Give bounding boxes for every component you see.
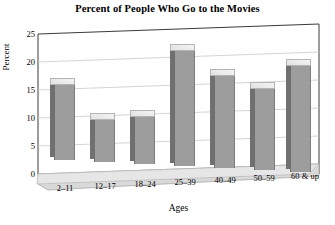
bar-front-face xyxy=(290,63,311,172)
bar-chart: Percent of People Who Go to the Movies P… xyxy=(0,0,335,225)
bar-18-24[interactable] xyxy=(134,114,155,164)
bar-front-face xyxy=(254,86,275,170)
bar-60-and-up[interactable] xyxy=(290,63,311,172)
y-tick-10: 10 xyxy=(27,114,36,123)
bar-12-17[interactable] xyxy=(94,117,115,162)
bar-top-face xyxy=(210,69,235,76)
chart-title: Percent of People Who Go to the Movies xyxy=(0,3,335,14)
x-tick-0: 2–11 xyxy=(44,184,86,193)
y-axis-label: Percent xyxy=(1,27,11,87)
y-tick-5: 5 xyxy=(31,142,35,151)
bar-front-face xyxy=(54,82,75,160)
plot-area: 0 5 10 15 20 25 xyxy=(38,24,319,174)
bar-top-face xyxy=(170,44,195,51)
x-tick-3: 25–39 xyxy=(164,178,206,187)
bar-50-59[interactable] xyxy=(254,86,275,170)
x-tick-4: 40–49 xyxy=(204,176,246,185)
y-tick-25: 25 xyxy=(27,30,36,39)
bar-2-11[interactable] xyxy=(54,82,75,160)
x-tick-2: 18–24 xyxy=(124,180,166,189)
bar-front-face xyxy=(94,117,115,162)
y-tick-20: 20 xyxy=(27,58,36,67)
x-tick-6: 60 & up xyxy=(281,172,329,181)
bar-40-49[interactable] xyxy=(214,73,235,168)
x-tick-1: 12–17 xyxy=(84,182,126,191)
bar-front-face xyxy=(214,73,235,168)
bar-top-face xyxy=(90,113,115,120)
bar-top-face xyxy=(286,59,311,66)
bar-front-face xyxy=(134,114,155,164)
y-tick-0: 0 xyxy=(31,170,35,179)
bar-top-face xyxy=(250,82,275,89)
bar-front-face xyxy=(174,48,195,166)
bar-top-face xyxy=(50,78,75,85)
bar-top-face xyxy=(130,110,155,117)
y-tick-15: 15 xyxy=(27,86,36,95)
x-tick-5: 50–59 xyxy=(243,174,285,183)
x-axis-label: Ages xyxy=(38,203,319,213)
bar-25-39[interactable] xyxy=(174,48,195,166)
